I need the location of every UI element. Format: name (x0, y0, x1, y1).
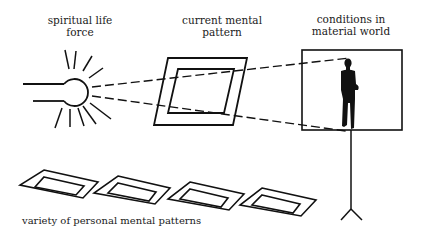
label-spiritual-life-force-line1: spiritual life (30, 14, 130, 26)
current-pattern-frame (154, 58, 247, 125)
pattern-variant-2 (94, 176, 170, 204)
label-current-mental-pattern: current mental pattern (170, 14, 274, 38)
label-spiritual-life-force-line2: force (30, 26, 130, 38)
label-conditions-material-world: conditions in material world (296, 13, 406, 37)
label-variety-of-patterns: variety of personal mental patterns (22, 215, 201, 227)
pattern-variant-3 (168, 182, 244, 210)
pattern-variants (20, 170, 316, 216)
pattern-variant-1 (20, 170, 98, 198)
label-conditions-material-world-line2: material world (296, 25, 406, 37)
pattern-variant-4 (240, 188, 316, 216)
label-conditions-material-world-line1: conditions in (296, 13, 406, 25)
label-current-mental-pattern-line1: current mental (170, 14, 274, 26)
person-silhouette-icon (341, 58, 359, 129)
light-source-icon (23, 50, 111, 128)
projection-diagram: spiritual life force current mental patt… (0, 0, 422, 242)
label-spiritual-life-force: spiritual life force (30, 14, 130, 38)
label-current-mental-pattern-line2: pattern (170, 26, 274, 38)
light-rays-icon (55, 50, 111, 128)
